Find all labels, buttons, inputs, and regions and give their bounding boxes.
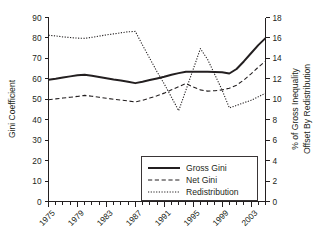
x-axis-tick-labels: 19751979198319871991199519992003 [37,208,260,228]
x-tick-label: 1975 [37,208,57,228]
legend-label-gross-gini: Gross Gini [186,163,227,173]
left-tick-label: 30 [32,135,42,145]
series-line-gross-gini [49,38,266,83]
x-tick-label: 2003 [239,208,259,228]
right-axis-ticks: 024681012141618 [266,13,283,207]
right-tick-label: 4 [273,156,278,166]
legend-label-redistribution: Redistribution [186,187,239,197]
legend-label-net-gini: Net Gini [186,175,217,185]
left-tick-label: 20 [32,156,42,166]
left-tick-label: 80 [32,33,42,43]
x-tick-label: 1983 [95,208,115,228]
right-tick-label: 0 [273,197,278,207]
right-tick-label: 12 [273,74,283,84]
right-tick-label: 14 [273,53,283,63]
y-axis-title: Gini Coefficient [7,79,17,138]
x-tick-label: 1991 [153,208,173,228]
right-tick-label: 2 [273,176,278,186]
x-tick-label: 1995 [181,208,201,228]
left-tick-label: 50 [32,94,42,104]
series-line-net-gini [49,61,266,102]
right-tick-label: 6 [273,135,278,145]
chart-legend[interactable]: Gross Gini Net Gini Redistribution [142,157,258,201]
x-tick-label: 1979 [66,208,86,228]
x-tick-label: 1987 [124,208,144,228]
left-tick-label: 90 [32,13,42,23]
right-tick-label: 18 [273,13,283,23]
x-tick-label: 1999 [210,208,230,228]
right-tick-label: 10 [273,94,283,104]
left-tick-label: 0 [37,197,42,207]
y2-axis-title-line2: Offset By Redistribution [302,64,312,154]
left-tick-label: 10 [32,176,42,186]
right-tick-label: 8 [273,115,278,125]
y2-axis-title-line1: % of Gross Inequality [290,67,300,149]
left-axis-ticks: 0102030405060708090 [32,13,48,207]
chart-series [49,31,266,110]
chart-figure: 0102030405060708090 024681012141618 1975… [0,0,324,251]
line-chart: 0102030405060708090 024681012141618 1975… [0,0,324,251]
left-tick-label: 70 [32,53,42,63]
left-tick-label: 60 [32,74,42,84]
right-tick-label: 16 [273,33,283,43]
left-tick-label: 40 [32,115,42,125]
